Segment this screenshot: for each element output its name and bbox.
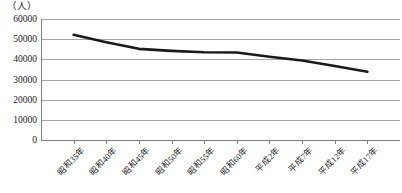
y-axis-tick-label: 50000 (13, 34, 37, 44)
x-axis-tick-label: 昭和60年 (218, 145, 250, 177)
y-axis-tick-label: 20000 (13, 95, 37, 105)
x-axis-tick-mark (106, 140, 107, 144)
x-axis-tick-label: 昭和35年 (55, 145, 87, 177)
y-axis-tick-label: 10000 (13, 115, 37, 125)
x-axis-tick-mark (335, 140, 336, 144)
x-axis-tick-label: 昭和45年 (120, 145, 152, 177)
x-axis-tick-label: 昭和50年 (152, 145, 184, 177)
x-axis-tick-mark (172, 140, 173, 144)
x-axis-tick-label: 平成12年 (316, 145, 348, 177)
x-axis-tick-mark (367, 140, 368, 144)
y-axis-tick-label: 30000 (13, 75, 37, 85)
x-axis-tick-mark (302, 140, 303, 144)
x-axis-tick-mark (74, 140, 75, 144)
x-axis-tick-label: 平成7年 (286, 145, 315, 174)
line-chart: （人） 6000050000400003000020000100000 昭和35… (0, 0, 402, 193)
y-axis-tick-label: 0 (32, 135, 37, 145)
x-axis-tick-label: 平成2年 (253, 145, 282, 174)
y-axis-tick-label: 40000 (13, 54, 37, 64)
x-axis-tick-labels: 昭和35年昭和40年昭和45年昭和50年昭和55年昭和60年平成2年平成7年平成… (41, 145, 400, 193)
y-axis-unit-label: （人） (7, 0, 37, 12)
series-line-population (41, 19, 400, 140)
x-axis-tick-label: 平成17年 (348, 145, 380, 177)
y-axis-tick-label: 60000 (13, 14, 37, 24)
x-axis-tick-mark (139, 140, 140, 144)
x-axis-tick-mark (237, 140, 238, 144)
x-axis-line (41, 140, 400, 141)
x-axis-tick-label: 昭和40年 (87, 145, 119, 177)
x-axis-tick-label: 昭和55年 (185, 145, 217, 177)
x-axis-tick-mark (269, 140, 270, 144)
x-axis-tick-mark (204, 140, 205, 144)
y-axis-tick-labels: 6000050000400003000020000100000 (0, 19, 37, 140)
